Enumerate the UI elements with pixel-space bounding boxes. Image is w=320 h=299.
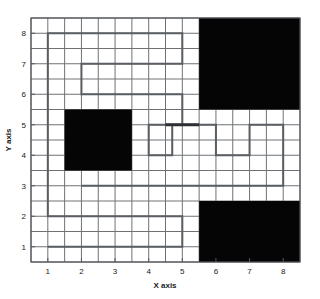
bottom-right-obstacle xyxy=(199,201,300,262)
x-tick-label: 8 xyxy=(281,267,286,276)
y-tick-label: 7 xyxy=(22,60,27,69)
y-tick-label: 3 xyxy=(22,182,27,191)
plot-svg: 1234567812345678 X axis Y axis xyxy=(0,0,320,299)
x-tick-label: 6 xyxy=(214,267,219,276)
y-tick-label: 1 xyxy=(22,243,27,252)
middle-left-obstacle xyxy=(65,110,132,171)
top-right-obstacle xyxy=(199,18,300,110)
x-tick-label: 4 xyxy=(146,267,151,276)
x-tick-label: 2 xyxy=(79,267,84,276)
maze-path-figure: 1234567812345678 X axis Y axis xyxy=(0,0,320,299)
y-tick-label: 5 xyxy=(22,121,27,130)
x-tick-label: 5 xyxy=(180,267,185,276)
x-axis-title: X axis xyxy=(153,281,177,290)
y-tick-label: 6 xyxy=(22,90,27,99)
x-tick-label: 7 xyxy=(247,267,252,276)
y-tick-label: 4 xyxy=(22,151,27,160)
y-tick-label: 2 xyxy=(22,212,27,221)
y-axis-title: Y axis xyxy=(4,128,13,152)
y-tick-label: 8 xyxy=(22,29,27,38)
x-tick-label: 3 xyxy=(113,267,118,276)
x-tick-label: 1 xyxy=(46,267,51,276)
